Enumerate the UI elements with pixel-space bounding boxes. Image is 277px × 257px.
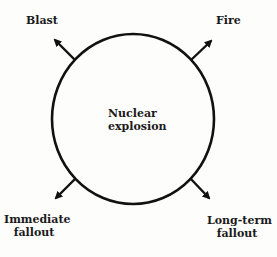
blast-arrow [55, 40, 75, 60]
immediate-fallout-label: Immediate fallout [4, 213, 64, 239]
diagram-canvas: Blast Fire Immediate fallout Long-term f… [0, 0, 277, 257]
center-label: Nuclear explosion [108, 107, 166, 133]
center-line2: explosion [108, 120, 166, 133]
long-term-fallout-label: Long-term fallout [207, 214, 267, 240]
immediate-fallout-arrow [56, 179, 75, 198]
immediate-fallout-line2: fallout [4, 226, 64, 239]
long-term-fallout-line2: fallout [207, 227, 267, 240]
center-line1: Nuclear [108, 107, 166, 120]
blast-label: Blast [26, 14, 58, 27]
fire-text: Fire [216, 14, 241, 27]
blast-text: Blast [26, 14, 58, 27]
long-term-fallout-line1: Long-term [207, 214, 267, 227]
fire-label: Fire [216, 14, 241, 27]
fire-arrow [191, 41, 211, 60]
immediate-fallout-line1: Immediate [4, 213, 64, 226]
long-term-fallout-arrow [190, 178, 209, 198]
